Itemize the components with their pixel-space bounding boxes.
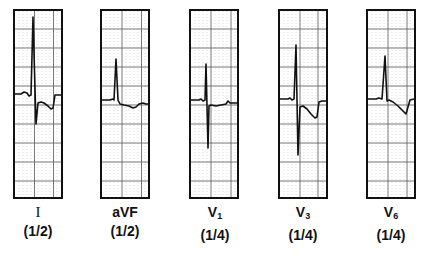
- ecg-trace-lead-v3: [280, 11, 327, 197]
- lead-name: V1: [175, 203, 255, 225]
- lead-subscript: 3: [305, 211, 310, 221]
- ecg-strip-lead-avf: [100, 9, 150, 199]
- lead-label-v1: V1 (1/4): [175, 203, 255, 244]
- lead-scale: (1/2): [0, 222, 78, 240]
- lead-label-i: I (1/2): [0, 203, 78, 240]
- lead-scale: (1/4): [263, 226, 343, 244]
- lead-label-v3: V3 (1/4): [263, 203, 343, 244]
- lead-subscript: 1: [217, 211, 222, 221]
- ecg-trace-lead-v1: [191, 11, 239, 197]
- lead-name: aVF: [85, 203, 165, 221]
- ecg-trace-lead-avf: [102, 11, 149, 197]
- lead-name: V3: [263, 203, 343, 225]
- lead-subscript: 6: [393, 211, 398, 221]
- lead-scale: (1/4): [175, 226, 255, 244]
- lead-name: I: [0, 203, 78, 221]
- lead-scale: (1/2): [85, 222, 165, 240]
- lead-scale: (1/4): [351, 226, 427, 244]
- lead-label-avf: aVF (1/2): [85, 203, 165, 240]
- ecg-strip-lead-i: [13, 9, 63, 199]
- ecg-strip-lead-v3: [278, 9, 328, 199]
- lead-name: V6: [351, 203, 427, 225]
- ecg-trace-lead-v6: [368, 11, 414, 197]
- ecg-strip-lead-v6: [366, 9, 416, 199]
- lead-label-v6: V6 (1/4): [351, 203, 427, 244]
- ecg-trace-lead-i: [15, 11, 61, 197]
- ecg-strip-lead-v1: [189, 9, 239, 199]
